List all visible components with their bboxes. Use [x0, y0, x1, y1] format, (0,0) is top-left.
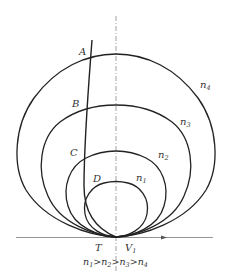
velocity-label: V1 — [125, 242, 136, 255]
curve-label-n4: n4 — [200, 79, 211, 92]
curve-label-n1: n1 — [136, 172, 147, 185]
crossing-curve — [84, 40, 116, 237]
point-label-t: T — [95, 242, 103, 253]
curve-label-n2: n2 — [158, 149, 169, 162]
axis-arrow-icon — [161, 236, 167, 240]
point-label-d: D — [92, 173, 101, 184]
point-label-c: C — [70, 147, 78, 158]
caption: n1>n2>n3>n4 — [83, 256, 148, 269]
curve-label-n3: n3 — [180, 116, 191, 129]
point-label-a: A — [78, 46, 86, 57]
diagram-canvas: A B C D T V1 n4 n3 n2 n1 n1>n2>n3>n4 — [0, 0, 229, 279]
point-label-b: B — [71, 98, 79, 109]
